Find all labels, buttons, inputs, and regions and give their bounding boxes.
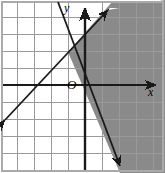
y-axis-label: y <box>64 2 69 14</box>
x-axis-label: x <box>148 86 153 98</box>
coordinate-plane-svg <box>0 0 165 173</box>
origin-label: O <box>67 78 76 91</box>
graph-figure: y x O <box>0 0 165 173</box>
